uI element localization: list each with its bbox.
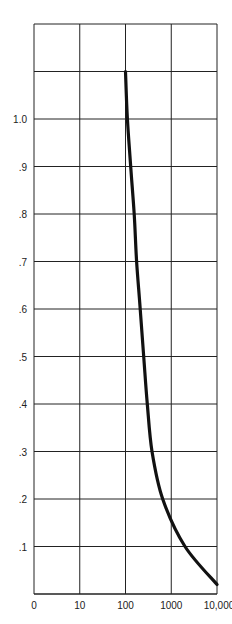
y-tick-label: .2 <box>19 494 28 505</box>
y-tick-label: .1 <box>19 542 28 553</box>
x-tick-label: 10,000 <box>204 600 232 611</box>
x-tick-label: 100 <box>117 600 134 611</box>
y-tick-label: .3 <box>19 447 28 458</box>
x-axis-ticks: 010100100010,000 <box>31 600 232 611</box>
y-tick-label: .4 <box>19 399 28 410</box>
y-tick-label: .7 <box>19 257 28 268</box>
y-axis-ticks: .1.2.3.4.5.6.7.8.91.0 <box>13 114 27 553</box>
y-tick-label: .9 <box>19 162 28 173</box>
chart: .1.2.3.4.5.6.7.8.91.0 010100100010,000 <box>0 0 232 624</box>
y-tick-label: 1.0 <box>13 114 27 125</box>
x-tick-label: 0 <box>31 600 37 611</box>
x-tick-label: 1000 <box>160 600 183 611</box>
y-tick-label: .5 <box>19 352 28 363</box>
y-tick-label: .8 <box>19 209 28 220</box>
x-tick-label: 10 <box>74 600 86 611</box>
y-tick-label: .6 <box>19 304 28 315</box>
